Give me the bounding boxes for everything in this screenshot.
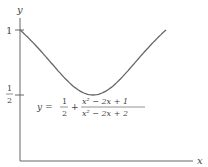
svg-text:x² − 2x + 2: x² − 2x + 2 — [82, 109, 128, 118]
svg-text:y =: y = — [36, 102, 53, 112]
tick-label-half-num: 1 — [7, 84, 12, 93]
svg-text:2: 2 — [62, 109, 67, 118]
equation-annotation: y = 1 2 + x² − 2x + 1 x² − 2x + 2 — [36, 97, 145, 118]
curve — [20, 30, 166, 95]
x-axis-label: x — [197, 155, 203, 166]
tick-label-half-den: 2 — [7, 96, 12, 105]
svg-text:+: + — [71, 102, 79, 112]
tick-label-1: 1 — [6, 25, 12, 36]
y-axis-label: y — [16, 4, 23, 15]
chart: y x 1 1 2 y = 1 2 + x² − 2x + 1 x² − 2x … — [0, 0, 208, 167]
svg-text:1: 1 — [62, 97, 67, 106]
svg-text:x² − 2x + 1: x² − 2x + 1 — [82, 97, 128, 106]
